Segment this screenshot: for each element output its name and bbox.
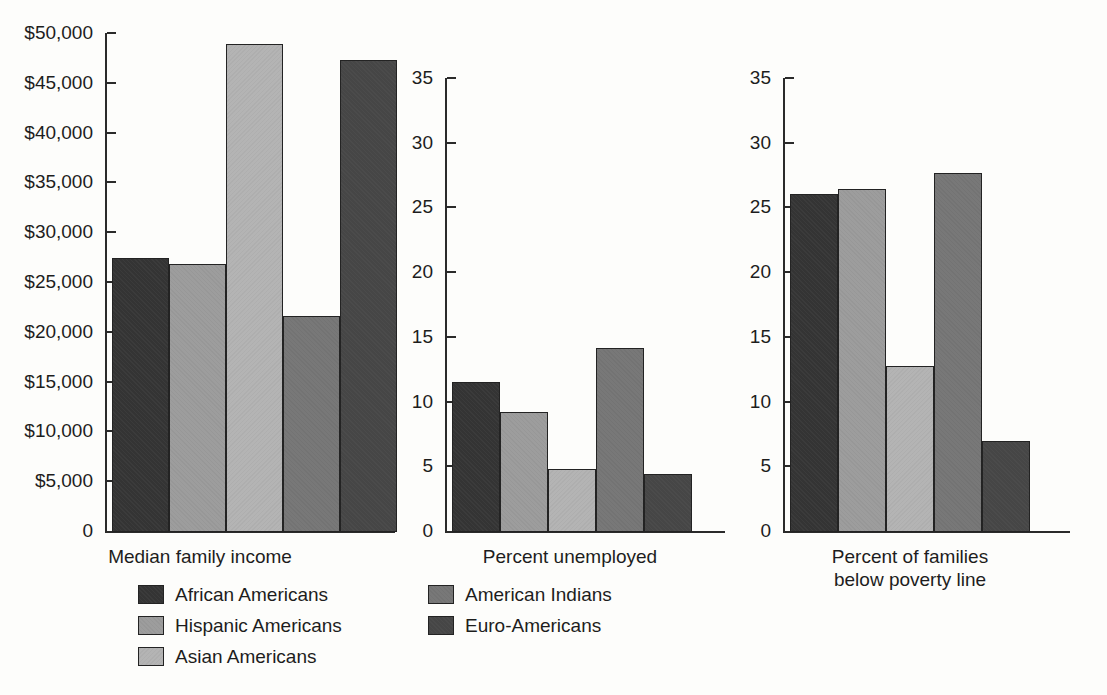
legend-label-2: Asian Americans	[175, 647, 317, 666]
y-axis-tick-0-9	[107, 82, 116, 84]
y-axis-tick-label-1-1: 5	[401, 456, 433, 475]
y-axis-tick-0-6	[107, 231, 116, 233]
plot-area-2: 05101520253035	[740, 0, 1107, 560]
legend-swatch-texture-4	[429, 617, 453, 634]
y-axis-tick-2-7	[785, 77, 794, 79]
y-axis-line-0	[105, 33, 107, 533]
bar-1-3	[596, 348, 644, 532]
y-axis-tick-label-2-5: 25	[739, 197, 771, 216]
legend-label-4: Euro-Americans	[465, 616, 601, 635]
legend-item-1: Hispanic Americans	[138, 616, 342, 635]
y-axis-tick-label-0-5: $25,000	[0, 272, 93, 291]
bar-1-0	[452, 382, 500, 532]
y-axis-tick-label-1-3: 15	[401, 327, 433, 346]
y-axis-tick-label-0-3: $15,000	[0, 372, 93, 391]
legend-item-4: Euro-Americans	[428, 616, 601, 635]
bar-texture-1-1	[501, 413, 547, 531]
legend-swatch-texture-3	[429, 586, 453, 603]
y-axis-tick-label-1-7: 35	[401, 68, 433, 87]
legend-item-2: Asian Americans	[138, 647, 317, 666]
bar-0-2	[226, 44, 283, 532]
legend-label-1: Hispanic Americans	[175, 616, 342, 635]
bar-1-1	[500, 412, 548, 532]
y-axis-tick-label-2-2: 10	[739, 392, 771, 411]
bar-texture-1-0	[453, 383, 499, 531]
bar-texture-0-4	[341, 61, 396, 531]
y-axis-tick-label-0-9: $45,000	[0, 73, 93, 92]
legend-item-0: African Americans	[138, 585, 328, 604]
bar-2-3	[934, 173, 982, 532]
bar-0-1	[169, 264, 226, 532]
y-axis-tick-1-4	[447, 271, 456, 273]
bar-2-4	[982, 441, 1030, 532]
bar-texture-1-2	[549, 470, 595, 531]
y-axis-tick-label-0-7: $35,000	[0, 172, 93, 191]
legend-swatch-texture-2	[139, 648, 163, 665]
legend-swatch-4	[428, 616, 454, 635]
y-axis-tick-label-2-6: 30	[739, 133, 771, 152]
bar-2-2	[886, 366, 934, 532]
y-axis-tick-label-2-4: 20	[739, 262, 771, 281]
y-axis-tick-1-5	[447, 206, 456, 208]
y-axis-tick-label-1-0: 0	[401, 521, 433, 540]
chart-panel-percent-unemployed: 05101520253035 Percent unemployed	[400, 0, 740, 560]
y-axis-tick-label-0-4: $20,000	[0, 322, 93, 341]
bar-texture-0-3	[284, 317, 339, 531]
y-axis-tick-label-0-8: $40,000	[0, 123, 93, 142]
bar-0-4	[340, 60, 397, 532]
y-axis-tick-1-3	[447, 336, 456, 338]
legend-swatch-texture-1	[139, 617, 163, 634]
y-axis-tick-label-0-6: $30,000	[0, 222, 93, 241]
y-axis-tick-label-1-5: 25	[401, 197, 433, 216]
y-axis-tick-label-1-6: 30	[401, 133, 433, 152]
y-axis-tick-0-7	[107, 181, 116, 183]
y-axis-tick-2-6	[785, 142, 794, 144]
bar-0-3	[283, 316, 340, 532]
y-axis-tick-label-2-0: 0	[739, 521, 771, 540]
x-axis-label-1: Percent unemployed	[400, 545, 740, 568]
bar-texture-2-0	[791, 195, 837, 531]
legend-item-3: American Indians	[428, 585, 612, 604]
bar-texture-1-4	[645, 475, 691, 531]
legend-swatch-2	[138, 647, 164, 666]
bar-texture-2-1	[839, 190, 885, 531]
legend-swatch-1	[138, 616, 164, 635]
plot-area-0: 0$5,000$10,000$15,000$20,000$25,000$30,0…	[0, 0, 400, 560]
x-axis-label-text-1: Percent unemployed	[483, 546, 657, 567]
y-axis-tick-1-6	[447, 142, 456, 144]
chart-panel-median-family-income: 0$5,000$10,000$15,000$20,000$25,000$30,0…	[0, 0, 400, 560]
legend-swatch-0	[138, 585, 164, 604]
bar-texture-2-4	[983, 442, 1029, 531]
legend-label-3: American Indians	[465, 585, 612, 604]
bar-texture-2-3	[935, 174, 981, 531]
chart-panel-percent-below-poverty: 05101520253035 Percent of families below…	[740, 0, 1107, 560]
x-axis-label-0: Median family income	[0, 545, 400, 568]
y-axis-tick-label-1-2: 10	[401, 392, 433, 411]
x-axis-label-text-0: Median family income	[108, 546, 292, 567]
y-axis-tick-label-2-3: 15	[739, 327, 771, 346]
bar-texture-0-0	[113, 259, 168, 531]
y-axis-tick-label-2-1: 5	[739, 456, 771, 475]
bar-1-4	[644, 474, 692, 532]
bar-1-2	[548, 469, 596, 532]
y-axis-tick-1-7	[447, 77, 456, 79]
bar-texture-0-2	[227, 45, 282, 531]
bar-texture-1-3	[597, 349, 643, 531]
y-axis-tick-0-8	[107, 132, 116, 134]
x-axis-label-text-2-line1: Percent of families	[740, 545, 1080, 568]
y-axis-tick-label-0-1: $5,000	[0, 471, 93, 490]
x-axis-label-text-2-line2: below poverty line	[740, 568, 1080, 591]
legend: African AmericansHispanic AmericansAsian…	[138, 585, 698, 675]
bar-0-0	[112, 258, 169, 532]
x-axis-label-2: Percent of families below poverty line	[740, 545, 1080, 591]
y-axis-tick-0-10	[107, 32, 116, 34]
y-axis-tick-label-0-10: $50,000	[0, 23, 93, 42]
figure-root: 0$5,000$10,000$15,000$20,000$25,000$30,0…	[0, 0, 1107, 695]
y-axis-tick-label-1-4: 20	[401, 262, 433, 281]
y-axis-tick-label-2-7: 35	[739, 68, 771, 87]
plot-area-1: 05101520253035	[400, 0, 740, 560]
bar-texture-0-1	[170, 265, 225, 531]
legend-label-0: African Americans	[175, 585, 328, 604]
legend-swatch-3	[428, 585, 454, 604]
bar-2-1	[838, 189, 886, 532]
